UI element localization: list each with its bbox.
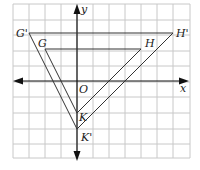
vertex-label-k-prime: K': [80, 131, 92, 144]
origin-label: O: [79, 83, 88, 96]
vertex-label-h-prime: H': [175, 27, 189, 40]
y-axis-up-arrow-icon: [74, 4, 81, 14]
y-axis-down-arrow-icon: [74, 151, 81, 161]
x-axis-label: x: [180, 82, 187, 95]
y-axis-label: y: [80, 3, 88, 16]
vertex-label-g-prime: G': [16, 27, 28, 40]
x-axis-left-arrow-icon: [13, 78, 23, 85]
x-axis: [13, 78, 189, 85]
vertex-label-h: H: [144, 37, 155, 50]
vertex-label-g: G: [38, 37, 47, 50]
vertex-label-k: K: [78, 111, 88, 124]
coordinate-grid-diagram: y x O G' H' K' G H K: [0, 0, 200, 170]
